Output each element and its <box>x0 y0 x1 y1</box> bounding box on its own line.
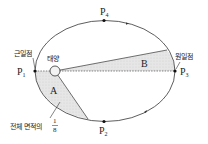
aphelion-label: 원일점 <box>175 52 193 61</box>
sun-label: 태양 <box>47 55 60 63</box>
point-p1 <box>33 69 36 72</box>
point-p2 <box>102 120 105 123</box>
label-p4: P4 <box>100 6 109 18</box>
perihelion-label: 근일점 <box>14 49 32 58</box>
label-p3: P3 <box>180 66 189 78</box>
area-b-label: B <box>141 58 148 69</box>
sun-icon <box>50 66 60 76</box>
fraction-numerator: 1 <box>53 117 57 125</box>
kepler-diagram: P4 P1 P3 P2 근일점 원일점 태양 A B 전체 면적의 1 8 <box>0 0 208 144</box>
area-note-label: 전체 면적의 <box>10 122 42 131</box>
point-p4 <box>102 19 105 22</box>
fraction-denominator: 8 <box>53 126 57 134</box>
label-p1: P1 <box>17 66 26 78</box>
label-p2: P2 <box>99 125 108 137</box>
area-a-label: A <box>50 85 58 96</box>
point-p3 <box>173 69 176 72</box>
perihelion-leader <box>33 58 35 69</box>
